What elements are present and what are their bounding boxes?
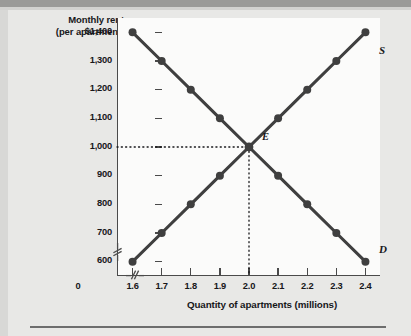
equilibrium-point-label: E bbox=[262, 131, 269, 142]
supply-data-point bbox=[129, 258, 137, 266]
supply-data-point bbox=[361, 28, 369, 36]
supply-demand-chart: Monthly rent (per apartment) $1,4001,300… bbox=[0, 0, 411, 336]
demand-data-point bbox=[303, 200, 311, 208]
x-axis-title: Quantity of apartments (millions) bbox=[128, 299, 396, 310]
supply-data-point bbox=[187, 200, 195, 208]
demand-data-point bbox=[216, 114, 224, 122]
supply-curve-label: S bbox=[379, 44, 385, 56]
supply-data-point bbox=[216, 172, 224, 180]
demand-data-point bbox=[158, 57, 166, 65]
demand-data-point bbox=[187, 86, 195, 94]
supply-data-point bbox=[303, 86, 311, 94]
equilibrium-point-marker bbox=[245, 143, 254, 152]
demand-curve-label: D bbox=[379, 243, 387, 255]
supply-data-point bbox=[158, 229, 166, 237]
demand-data-point bbox=[129, 28, 137, 36]
figure-bottom-rule bbox=[30, 326, 386, 328]
supply-data-point bbox=[332, 57, 340, 65]
demand-data-point bbox=[332, 229, 340, 237]
supply-data-point bbox=[274, 114, 282, 122]
demand-data-point bbox=[274, 172, 282, 180]
demand-data-point bbox=[361, 258, 369, 266]
curves-layer bbox=[0, 0, 411, 336]
